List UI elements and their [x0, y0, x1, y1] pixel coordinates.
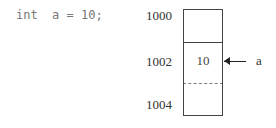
memory-value: 10: [183, 53, 223, 69]
variable-label: a: [256, 53, 262, 69]
address-label-1000: 1000: [146, 8, 172, 24]
memory-cell-1004: [183, 83, 223, 116]
arrow-left-icon: [224, 57, 230, 65]
memory-cell-1000: [183, 9, 223, 43]
address-label-1004: 1004: [146, 97, 172, 113]
code-statement: int a = 10;: [16, 8, 103, 22]
address-label-1002: 1002: [146, 54, 172, 70]
